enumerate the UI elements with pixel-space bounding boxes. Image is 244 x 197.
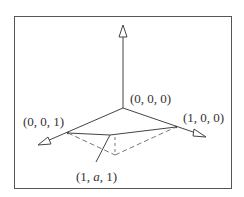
point-label-prefix: (1,	[76, 169, 93, 184]
point-leader-line	[96, 135, 110, 162]
z-axis-point-label: (0, 0, 1)	[23, 114, 64, 129]
point-label-suffix: , 1)	[100, 169, 117, 184]
vertical-axis-arrowhead-icon	[119, 25, 127, 37]
x-axis-point-label: (1, 0, 0)	[183, 110, 224, 125]
point-1-a-1-label: (1, a, 1)	[76, 169, 117, 184]
origin-label: (0, 0, 0)	[130, 91, 171, 106]
x-axis-arrowhead-icon	[193, 129, 206, 137]
plane-dashed-edge-left	[68, 133, 115, 155]
z-axis-arrowhead-icon	[38, 137, 51, 145]
diagram-canvas: (0, 0, 0) (1, 0, 0) (0, 0, 1) (1, a, 1)	[0, 0, 244, 197]
plane-solid-edge	[68, 127, 176, 135]
